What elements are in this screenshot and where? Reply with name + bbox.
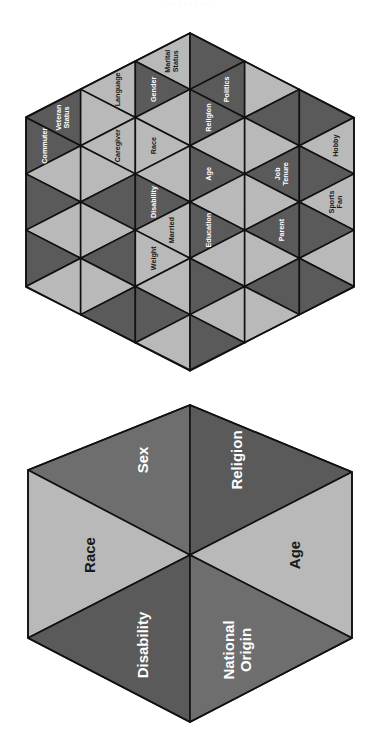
svg-text:Age: Age	[286, 541, 303, 569]
svg-text:Tenure: Tenure	[281, 162, 290, 185]
small-label-age: Age	[204, 167, 213, 181]
svg-text:Disability: Disability	[134, 611, 151, 678]
svg-text:Status: Status	[62, 107, 71, 129]
svg-text:Age: Age	[204, 167, 213, 181]
svg-text:Race: Race	[149, 137, 158, 154]
small-label-veteran-status: VeteranStatus	[54, 105, 71, 131]
svg-text:Weight: Weight	[149, 246, 158, 270]
svg-text:Race: Race	[81, 537, 98, 573]
svg-text:Status: Status	[171, 50, 180, 72]
small-label-gender: Gender	[149, 77, 158, 102]
small-label-commuter: Commuter	[40, 128, 49, 164]
small-label-politics: Politics	[222, 77, 231, 103]
svg-text:Education: Education	[204, 213, 213, 248]
large-label-race: Race	[81, 537, 98, 573]
large-label-national-origin: NationalOrigin	[220, 620, 254, 679]
large-label-age: Age	[286, 541, 303, 569]
svg-text:Commuter: Commuter	[40, 128, 49, 164]
large-label-sex: Sex	[134, 446, 151, 473]
svg-text:Sex: Sex	[134, 446, 151, 473]
svg-text:National: National	[220, 620, 237, 679]
svg-text:Fan: Fan	[335, 196, 344, 209]
small-label-weight: Weight	[149, 246, 158, 270]
svg-text:Disability: Disability	[149, 186, 158, 218]
large-label-religion: Religion	[228, 430, 245, 489]
small-label-language: Language	[113, 72, 122, 106]
small-label-hobby: Hobby	[331, 135, 340, 157]
small-label-caregiver: Caregiver	[113, 129, 122, 162]
svg-text:Politics: Politics	[222, 77, 231, 103]
svg-text:Parent: Parent	[277, 218, 286, 241]
hexagon-canvas: VeteranStatusCommuterLanguageCaregiverMa…	[0, 0, 377, 748]
small-label-religion: Religion	[204, 103, 213, 131]
svg-text:Religion: Religion	[204, 103, 213, 131]
svg-text:Hobby: Hobby	[331, 135, 340, 157]
svg-text:Religion: Religion	[228, 430, 245, 489]
svg-text:Gender: Gender	[149, 77, 158, 102]
large-label-disability: Disability	[134, 611, 151, 678]
svg-text:Origin: Origin	[237, 628, 254, 672]
svg-text:Caregiver: Caregiver	[113, 129, 122, 162]
small-label-married: Married	[167, 217, 176, 243]
small-label-marital-status: MaritalStatus	[163, 50, 180, 73]
small-label-education: Education	[204, 213, 213, 248]
svg-text:Married: Married	[167, 217, 176, 243]
small-label-disability: Disability	[149, 186, 158, 218]
svg-text:Language: Language	[113, 72, 122, 106]
small-label-parent: Parent	[277, 218, 286, 241]
small-label-race: Race	[149, 137, 158, 154]
